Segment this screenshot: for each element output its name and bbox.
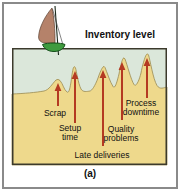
label-setup-time: Setup time [52, 124, 88, 142]
diagram-title: Inventory level [70, 29, 170, 40]
boat-sail [39, 8, 55, 43]
figure-inventory-level: Inventory level Scrap Setup time Late de… [0, 0, 180, 191]
label-quality-problems: Quality problems [99, 125, 143, 143]
label-process-downtime: Process downtime [118, 99, 164, 117]
figure-caption: (a) [0, 168, 180, 179]
label-scrap: Scrap [35, 109, 75, 118]
sailboat-icon [39, 6, 65, 55]
label-late-deliveries: Late deliveries [62, 151, 142, 160]
